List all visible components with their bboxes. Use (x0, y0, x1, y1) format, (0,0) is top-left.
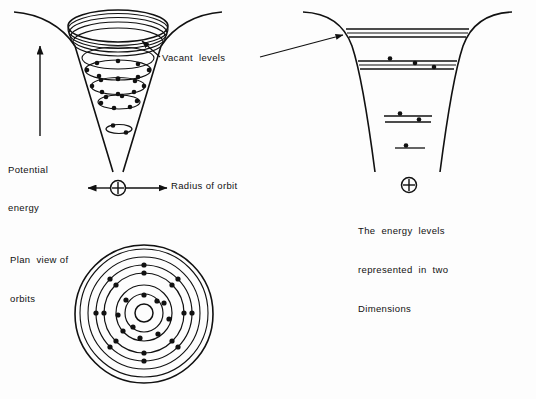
well-curve-right (440, 12, 512, 172)
plan-electrons-ring-4 (93, 262, 194, 363)
figure-root: Vacant levels Potential energy Radius of… (0, 0, 536, 399)
electrons-ring-6 (99, 94, 140, 111)
two-dimensions-caption: The energy levels represented in two Dim… (358, 198, 448, 341)
electrons-level-4 (388, 56, 437, 69)
vacant-levels-label: Vacant levels (162, 52, 225, 65)
two-dimensional-well-panel (303, 12, 512, 193)
two-dimensions-line-1: The energy levels (358, 224, 448, 237)
electrons-level-9 (404, 143, 409, 148)
plan-electrons-ring-5 (101, 270, 186, 355)
funnel-rim-ring-2 (68, 14, 168, 46)
physics-diagram-svg (0, 0, 536, 399)
two-dimensions-line-2: represented in two (358, 263, 448, 276)
vacant-levels-arrow-right (260, 35, 343, 57)
two-dimensions-line-3: Dimensions (358, 302, 448, 315)
plan-orbit-circle-2 (80, 249, 208, 377)
funnel-rim-outer (68, 10, 168, 42)
plan-view-panel (75, 245, 213, 383)
potential-energy-label: Potential energy (8, 139, 48, 239)
potential-energy-line-1: Potential (8, 164, 48, 177)
orbit-ring-3-vacant (82, 47, 154, 69)
plan-nucleus-circle (135, 304, 153, 322)
radius-of-orbit-label: Radius of orbit (171, 180, 238, 193)
plan-view-line-1: Plan view of (10, 253, 68, 266)
plan-view-line-2: orbits (10, 292, 68, 305)
plan-view-caption: Plan view of orbits (10, 227, 68, 331)
potential-energy-line-2: energy (8, 202, 48, 215)
